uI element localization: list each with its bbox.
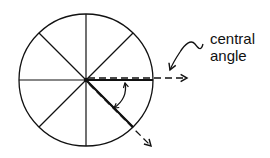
label-line-1: central — [210, 30, 255, 47]
central-angle-arc — [114, 83, 126, 108]
label-pointer-arrow — [170, 42, 203, 70]
center-point — [84, 78, 88, 82]
label-line-2: angle — [210, 47, 255, 64]
central-angle-label: central angle — [210, 30, 255, 64]
central-angle-diagram — [0, 0, 270, 158]
